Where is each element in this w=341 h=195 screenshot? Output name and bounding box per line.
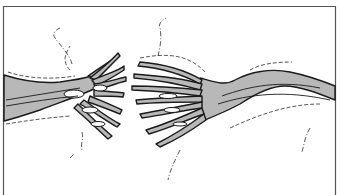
right-channel-system: [132, 18, 335, 180]
left-channel-system: [4, 28, 126, 158]
channel-network-diagram: [0, 0, 341, 195]
